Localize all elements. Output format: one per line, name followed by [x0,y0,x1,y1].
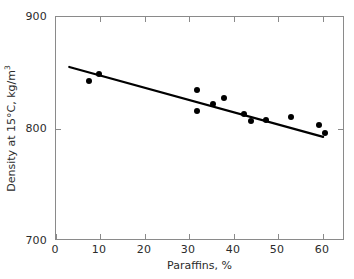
data-point [96,71,102,77]
y-tick-label-900: 900 [0,10,47,23]
x-tick-label-60: 60 [315,243,329,256]
data-point [221,95,227,101]
x-tick-label-10: 10 [92,243,106,256]
data-point [241,111,247,117]
x-tick-label-20: 20 [137,243,151,256]
data-layer [56,17,343,239]
chart-figure: Density at 15°C, kg/m3 900 800 700 0 10 … [0,0,354,279]
data-point [86,78,92,84]
data-point [210,101,216,107]
data-point [263,117,269,123]
trend-line-segment [69,67,323,137]
data-point [248,118,254,124]
x-tick-label-30: 30 [181,243,195,256]
x-tick-label-0: 0 [51,243,58,256]
x-tick-label-40: 40 [226,243,240,256]
data-point [194,87,200,93]
y-tick-label-700: 700 [0,234,47,247]
x-tick-label-50: 50 [270,243,284,256]
data-point [316,122,322,128]
x-axis-label: Paraffins, % [55,259,344,272]
data-point [194,108,200,114]
data-point [288,114,294,120]
data-point [322,130,328,136]
trend-line [56,17,343,239]
plot-area [55,16,344,240]
y-axis-label-exponent: 3 [3,65,12,70]
y-tick-label-800: 800 [0,122,47,135]
